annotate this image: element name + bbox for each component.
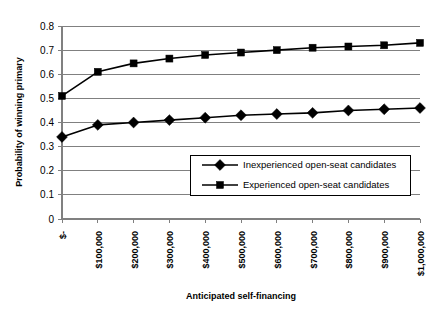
data-point-square <box>345 43 352 50</box>
y-tick-label: 0.2 <box>40 165 54 176</box>
data-point-square <box>273 47 280 54</box>
chart-legend: Inexperienced open-seat candidatesExperi… <box>190 155 410 195</box>
y-tick-label: 0.1 <box>40 189 54 200</box>
x-axis-title: Anticipated self-financing <box>186 291 296 301</box>
x-tick-label: $300,000 <box>165 231 175 269</box>
x-tick-label: $400,000 <box>201 231 211 269</box>
y-tick-label: 0.3 <box>40 141 54 152</box>
data-point-square <box>309 44 316 51</box>
x-tick-label: $600,000 <box>273 231 283 269</box>
y-tick-label: 0.6 <box>40 69 54 80</box>
data-point-square <box>417 39 424 46</box>
x-tick-label: $1,000,000 <box>416 231 426 276</box>
probability-line-chart: 00.10.20.30.40.50.60.70.8 $-$100,000$200… <box>0 0 442 319</box>
legend-label: Experienced open-seat candidates <box>243 179 390 190</box>
y-tick-label: 0.8 <box>40 21 54 32</box>
y-axis-title: Probability of winning primary <box>14 57 24 187</box>
x-tick-label: $100,000 <box>94 231 104 269</box>
y-tick-label: 0.4 <box>40 117 54 128</box>
x-tick-label: $- <box>58 231 68 239</box>
chart-container: 00.10.20.30.40.50.60.70.8 $-$100,000$200… <box>0 0 442 319</box>
x-tick-label: $700,000 <box>309 231 319 269</box>
y-tick-label: 0.5 <box>40 93 54 104</box>
y-tick-labels-group: 00.10.20.30.40.50.60.70.8 <box>40 21 54 225</box>
y-tick-label: 0.7 <box>40 45 54 56</box>
data-point-square <box>202 51 209 58</box>
legend-label: Inexperienced open-seat candidates <box>243 159 396 170</box>
data-point-square <box>94 68 101 75</box>
data-point-square <box>59 92 66 99</box>
data-point-square <box>238 49 245 56</box>
y-tick-label: 0 <box>48 214 54 225</box>
data-point-square <box>130 60 137 67</box>
data-point-square <box>166 55 173 62</box>
x-tick-label: $200,000 <box>130 231 140 269</box>
data-point-square <box>217 182 224 189</box>
x-tick-label: $900,000 <box>380 231 390 269</box>
x-tick-label: $800,000 <box>344 231 354 269</box>
data-point-square <box>381 42 388 49</box>
x-tick-label: $500,000 <box>237 231 247 269</box>
